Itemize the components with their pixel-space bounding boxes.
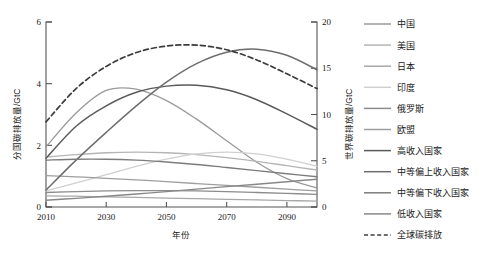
legend-label: 低收入国家 — [397, 208, 442, 219]
x-tick-label: 2030 — [97, 212, 116, 222]
x-tick-label: 2010 — [37, 212, 56, 222]
legend-label: 美国 — [397, 40, 415, 51]
series-line — [46, 152, 317, 170]
series-line — [46, 85, 317, 158]
legend-label: 中等偏下收入国家 — [397, 187, 469, 198]
left-axis-title: 分国碳排放量/GtC — [12, 89, 22, 160]
right-tick-label: 20 — [322, 17, 332, 27]
right-axis-ticks: 05101520 — [311, 17, 332, 212]
right-tick-label: 5 — [322, 156, 327, 166]
legend-label: 高收入国家 — [397, 145, 442, 156]
right-tick-label: 0 — [322, 202, 327, 212]
right-tick-label: 10 — [322, 110, 332, 120]
x-tick-label: 2070 — [218, 212, 237, 222]
legend-label: 欧盟 — [397, 124, 415, 135]
series-line — [46, 45, 317, 122]
carbon-emissions-chart: 0246 05101520 20102030205020702090 分国碳排放… — [0, 0, 495, 261]
legend-label: 俄罗斯 — [397, 103, 424, 114]
legend-label: 日本 — [397, 61, 415, 72]
legend-label: 中国 — [397, 18, 415, 29]
legend-label: 中等偏上收入国家 — [397, 166, 469, 177]
series-line — [46, 152, 317, 191]
chart-canvas: 0246 05101520 20102030205020702090 分国碳排放… — [0, 0, 495, 261]
series-line — [46, 196, 317, 201]
right-axis-title: 世界碳排放量/GtC — [344, 89, 354, 160]
x-tick-label: 2090 — [278, 212, 297, 222]
series-line — [46, 191, 317, 195]
series-lines — [46, 45, 317, 201]
legend-label: 全球碳排放 — [397, 229, 442, 240]
left-tick-label: 0 — [37, 202, 42, 212]
series-line — [46, 49, 317, 190]
x-axis-ticks: 20102030205020702090 — [37, 202, 296, 222]
left-tick-label: 2 — [37, 141, 42, 151]
left-tick-label: 4 — [37, 79, 42, 89]
right-tick-label: 15 — [322, 63, 332, 73]
x-tick-label: 2050 — [157, 212, 176, 222]
x-axis-title: 年份 — [172, 230, 190, 240]
chart-legend: 中国美国日本印度俄罗斯欧盟高收入国家中等偏上收入国家中等偏下收入国家低收入国家全… — [364, 18, 469, 240]
legend-label: 印度 — [397, 82, 415, 93]
left-tick-label: 6 — [37, 17, 42, 27]
left-axis — [46, 22, 52, 207]
left-axis-ticks: 0246 — [37, 17, 53, 212]
